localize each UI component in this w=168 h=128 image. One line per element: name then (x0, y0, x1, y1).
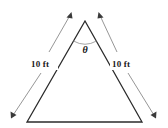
right-dimension-line-lower (128, 73, 155, 116)
triangle-diagram: θ 10 ft 10 ft (0, 0, 168, 128)
left-dimension-arrow-bottom-icon (11, 112, 17, 119)
right-dimension-arrow-bottom-icon (151, 112, 157, 119)
apex-angle-label: θ (82, 44, 88, 55)
geometry-figure-canvas: θ 10 ft 10 ft (0, 0, 168, 128)
left-dimension-label: 10 ft (31, 59, 49, 69)
triangle-outline (27, 21, 142, 122)
left-dimension-group: 10 ft (11, 12, 73, 119)
left-dimension-arrow-top-icon (67, 12, 73, 19)
right-dimension-line-upper (100, 15, 118, 53)
left-dimension-line-upper (49, 15, 71, 53)
right-dimension-label: 10 ft (112, 59, 130, 69)
left-dimension-line-lower (13, 73, 42, 116)
right-dimension-group: 10 ft (98, 12, 157, 119)
right-dimension-arrow-top-icon (98, 12, 104, 19)
